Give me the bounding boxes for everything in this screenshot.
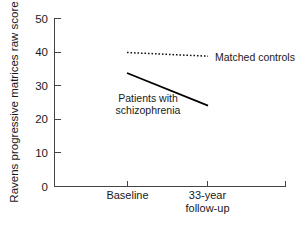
x-tick-label-baseline: Baseline xyxy=(106,189,148,201)
y-tick-label-10: 10 xyxy=(35,147,48,159)
y-tick-label-30: 30 xyxy=(35,80,48,92)
annotation-patients-line2: schizophrenia xyxy=(116,104,181,116)
y-tick-label-40: 40 xyxy=(35,46,48,58)
y-axis-title: Ravens progressive matrices raw score xyxy=(8,1,20,202)
y-tick-label-20: 20 xyxy=(35,113,48,125)
annotation-patients-line1: Patients with xyxy=(118,92,178,104)
y-tick-label-50: 50 xyxy=(35,13,48,25)
series-line-matched-controls xyxy=(127,53,208,57)
y-tick-label-0: 0 xyxy=(42,181,48,193)
chart-figure: 50 40 30 20 10 0 Ravens progressive matr… xyxy=(0,0,303,225)
line-chart-svg: 50 40 30 20 10 0 Ravens progressive matr… xyxy=(0,0,303,225)
annotation-matched-controls: Matched controls xyxy=(215,51,295,63)
x-tick-label-followup-line1: 33-year xyxy=(189,189,227,201)
x-tick-label-followup-line2: follow-up xyxy=(185,202,229,214)
